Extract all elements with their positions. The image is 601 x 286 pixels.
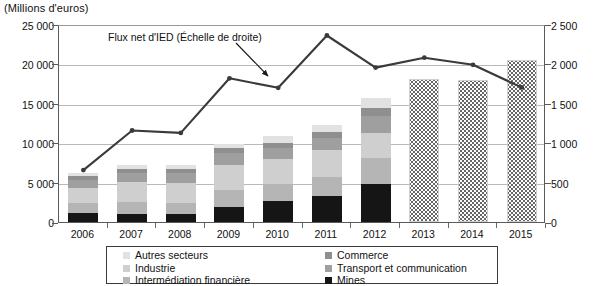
legend-swatch-autres-secteurs: [123, 252, 130, 259]
legend-swatch-industrie: [123, 265, 130, 272]
legend-item-industrie[interactable]: Industrie: [123, 263, 250, 275]
legend-item-mines[interactable]: Mines: [325, 275, 467, 286]
chart-legend: Autres secteurs Industrie Intermédiation…: [106, 246, 498, 284]
legend-swatch-transport-et-communication: [325, 265, 332, 272]
legend-column-left: Autres secteurs Industrie Intermédiation…: [123, 250, 250, 286]
legend-label-commerce: Commerce: [337, 250, 388, 262]
legend-label-intermediation-financiere: Intermédiation financière: [135, 275, 250, 286]
chart-canvas: (Millions d'euros) 25 000 20 000 15 000 …: [0, 0, 601, 286]
legend-item-transport-et-communication[interactable]: Transport et communication: [325, 263, 467, 275]
x-tickmark-2015: [545, 223, 546, 228]
annotation-arrow-icon: [0, 0, 601, 286]
legend-label-autres-secteurs: Autres secteurs: [135, 250, 208, 262]
legend-label-transport-et-communication: Transport et communication: [337, 263, 467, 275]
legend-label-industrie: Industrie: [135, 263, 175, 275]
legend-item-intermediation-financiere[interactable]: Intermédiation financière: [123, 275, 250, 286]
legend-swatch-commerce: [325, 252, 332, 259]
legend-column-right: Commerce Transport et communication Mine…: [325, 250, 467, 286]
legend-swatch-mines: [325, 277, 332, 284]
x-axis-label-2015: 2015: [491, 228, 551, 240]
legend-item-autres-secteurs[interactable]: Autres secteurs: [123, 250, 250, 262]
legend-swatch-intermediation-financiere: [123, 277, 130, 284]
legend-item-commerce[interactable]: Commerce: [325, 250, 467, 262]
legend-label-mines: Mines: [337, 275, 365, 286]
